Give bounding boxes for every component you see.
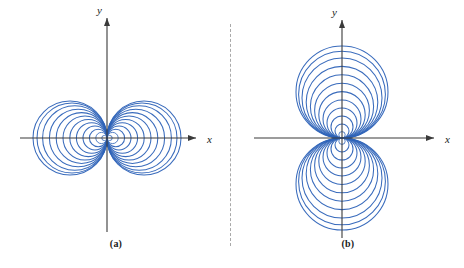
- panel-b: xy (b): [232, 0, 464, 268]
- x-axis-label: x: [206, 133, 212, 145]
- panel-b-caption: (b): [232, 238, 464, 249]
- panel-a-caption: (a): [0, 238, 232, 249]
- panel-b-plot: xy: [232, 0, 464, 268]
- panel-a-plot: xy: [0, 0, 232, 268]
- figure-canvas: xy (a) xy (b): [0, 0, 464, 268]
- panel-divider: [230, 24, 231, 246]
- y-axis-label: y: [96, 4, 102, 16]
- panel-a: xy (a): [0, 0, 232, 268]
- x-axis-label: x: [444, 133, 450, 145]
- y-axis-label: y: [331, 6, 337, 18]
